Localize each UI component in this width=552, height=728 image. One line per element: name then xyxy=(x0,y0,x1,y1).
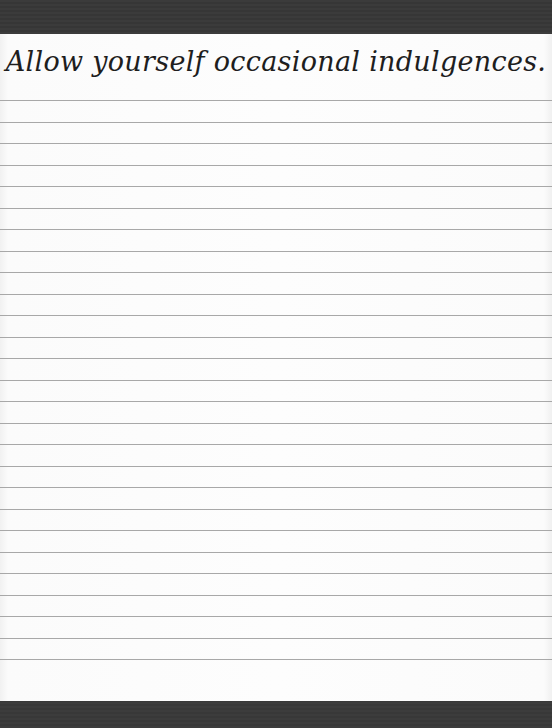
ruled-line xyxy=(0,294,552,295)
ruled-line xyxy=(0,208,552,209)
ruled-line xyxy=(0,487,552,488)
ruled-line xyxy=(0,573,552,574)
ruled-line xyxy=(0,552,552,553)
ruled-line xyxy=(0,272,552,273)
ruled-line xyxy=(0,401,552,402)
ruled-line xyxy=(0,466,552,467)
ruled-line xyxy=(0,358,552,359)
ruled-line xyxy=(0,509,552,510)
ruled-line xyxy=(0,423,552,424)
ruled-line xyxy=(0,659,552,660)
notepad-bottom-edge xyxy=(0,701,552,728)
ruled-line xyxy=(0,380,552,381)
ruled-line xyxy=(0,251,552,252)
ruled-line xyxy=(0,122,552,123)
ruled-line xyxy=(0,616,552,617)
ruled-line xyxy=(0,595,552,596)
ruled-line xyxy=(0,186,552,187)
ruled-line xyxy=(0,143,552,144)
ruled-line xyxy=(0,315,552,316)
notepad-heading: Allow yourself occasional indulgences. xyxy=(0,46,552,77)
ruled-line xyxy=(0,444,552,445)
ruled-line xyxy=(0,530,552,531)
ruled-line xyxy=(0,229,552,230)
notepad-sheet: Allow yourself occasional indulgences. xyxy=(0,34,552,701)
ruled-line xyxy=(0,337,552,338)
notepad-top-binding xyxy=(0,0,552,34)
ruled-line xyxy=(0,638,552,639)
ruled-line xyxy=(0,165,552,166)
ruled-line xyxy=(0,100,552,101)
